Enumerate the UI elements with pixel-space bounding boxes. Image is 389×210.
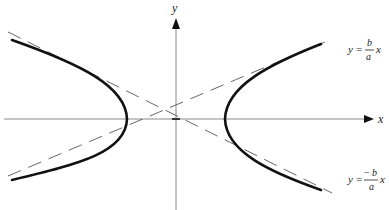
asymptote-label-negative: y = − b a x [347, 167, 385, 192]
svg-text:=: = [356, 173, 362, 185]
svg-text:−: − [364, 167, 370, 178]
svg-text:y: y [347, 173, 353, 185]
x-axis-label: x [377, 112, 384, 126]
x-axis-arrow-icon [364, 115, 374, 123]
origin-mark [172, 118, 180, 120]
x-axis: x [4, 112, 384, 126]
svg-text:b: b [372, 167, 377, 178]
hyperbola-right-branch [225, 44, 321, 190]
svg-text:b: b [367, 37, 372, 48]
y-axis-arrow-icon [172, 18, 180, 29]
svg-text:x: x [379, 173, 385, 185]
y-axis-label: y [171, 1, 178, 15]
svg-text:a: a [369, 181, 374, 192]
hyperbola-left-branch [12, 40, 127, 180]
svg-text:=: = [356, 43, 362, 55]
svg-text:y: y [347, 43, 353, 55]
svg-text:a: a [366, 51, 371, 62]
svg-text:x: x [375, 43, 381, 55]
asymptote-label-positive: y = b a x [347, 37, 381, 62]
hyperbola-figure: x y y = b a x y = − b a x [0, 0, 389, 210]
